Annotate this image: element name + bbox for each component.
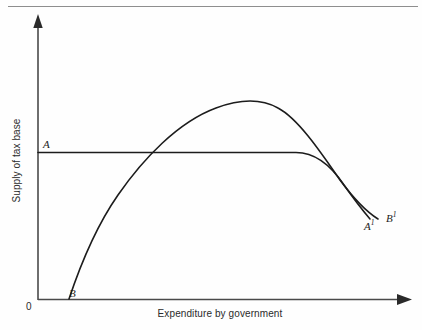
curve-label-a-prime-superscript: 1: [371, 218, 375, 227]
curve-label-b: B: [69, 287, 76, 299]
x-axis-label: Expenditure by government: [130, 308, 310, 319]
y-axis-label: Supply of tax base: [11, 106, 22, 216]
figure-container: Supply of tax base Expenditure by govern…: [0, 0, 422, 330]
y-axis: [33, 14, 42, 300]
x-axis: [38, 294, 412, 305]
curve-label-a-prime: A1: [364, 218, 374, 232]
curve-label-b-prime: B1: [386, 210, 396, 224]
curve-label-b-prime-base: B: [386, 212, 393, 224]
origin-label: 0: [26, 301, 32, 312]
series-AA1-curve: [38, 153, 370, 220]
curve-label-b-prime-superscript: 1: [393, 210, 397, 219]
curve-label-a: A: [43, 138, 50, 150]
curve-label-a-prime-base: A: [364, 220, 371, 232]
series-BB1-curve: [69, 101, 378, 299]
plot-area: [0, 0, 422, 330]
